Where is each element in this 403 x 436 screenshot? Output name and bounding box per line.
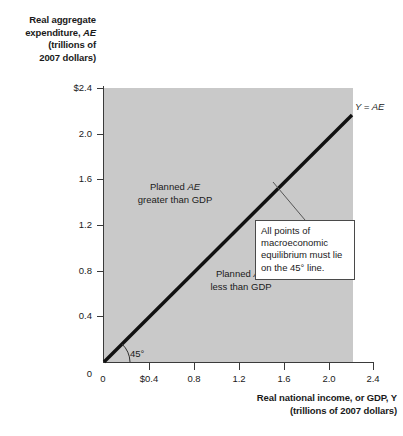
x-axis-title-line-1: Real national income, or GDP, Y <box>257 392 397 403</box>
chart-vector-layer <box>0 0 403 436</box>
y-equals-ae-label: Y = AE <box>355 101 384 112</box>
region-label-below-line-2: less than GDP <box>210 281 271 292</box>
region-label-above-line-2: greater than GDP <box>138 194 212 205</box>
x-axis-title-line-2: (trillions of 2007 dollars) <box>290 405 397 416</box>
angle-arc-icon <box>122 344 130 362</box>
angle-45-label: 45° <box>130 348 144 359</box>
chart-figure: Real aggregate expenditure, AE (trillion… <box>0 0 403 436</box>
equilibrium-callout-box: All points of macroeconomic equilibrium … <box>255 220 355 280</box>
x-axis-title: Real national income, or GDP, Y (trillio… <box>137 392 397 417</box>
callout-leader-line <box>273 182 305 220</box>
region-label-above-line-1: Planned AE <box>150 181 200 192</box>
equilibrium-callout-text: All points of macroeconomic equilibrium … <box>261 225 342 273</box>
region-label-above-line: Planned AE greater than GDP <box>120 181 230 206</box>
